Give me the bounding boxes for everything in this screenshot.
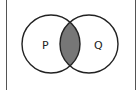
set-p-label: P — [42, 39, 49, 52]
venn-diagram: P Q — [0, 0, 140, 90]
set-q-label: Q — [94, 39, 103, 52]
